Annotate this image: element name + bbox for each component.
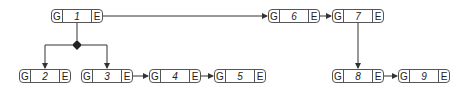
node-e-port: E bbox=[189, 70, 200, 82]
node-label: 2 bbox=[31, 70, 59, 82]
node-label: 9 bbox=[410, 70, 438, 82]
node-g-port: G bbox=[333, 70, 344, 82]
node-g-port: G bbox=[82, 70, 93, 82]
node-e-port: E bbox=[254, 70, 265, 82]
edge-diamond-2 bbox=[45, 45, 72, 68]
node-e-port: E bbox=[308, 10, 319, 22]
diagram-node-8[interactable]: G 8 E bbox=[332, 69, 384, 83]
node-label: 7 bbox=[344, 10, 372, 22]
node-e-port: E bbox=[372, 10, 383, 22]
node-g-port: G bbox=[150, 70, 161, 82]
diagram-node-6[interactable]: G 6 E bbox=[268, 9, 320, 23]
node-label: 8 bbox=[344, 70, 372, 82]
diagram-node-4[interactable]: G 4 E bbox=[149, 69, 201, 83]
node-g-port: G bbox=[333, 10, 344, 22]
diamond-icon bbox=[72, 40, 82, 50]
node-label: 4 bbox=[161, 70, 189, 82]
node-g-port: G bbox=[215, 70, 226, 82]
node-g-port: G bbox=[20, 70, 31, 82]
node-label: 5 bbox=[226, 70, 254, 82]
node-label: 3 bbox=[93, 70, 121, 82]
edge-diamond-3 bbox=[82, 45, 107, 68]
diagram-node-3[interactable]: G 3 E bbox=[81, 69, 133, 83]
node-g-port: G bbox=[52, 10, 63, 22]
node-e-port: E bbox=[121, 70, 132, 82]
node-label: 6 bbox=[280, 10, 308, 22]
node-e-port: E bbox=[59, 70, 70, 82]
diagram-node-9[interactable]: G 9 E bbox=[398, 69, 450, 83]
node-e-port: E bbox=[438, 70, 449, 82]
node-e-port: E bbox=[372, 70, 383, 82]
diagram-node-5[interactable]: G 5 E bbox=[214, 69, 266, 83]
diagram-node-2[interactable]: G 2 E bbox=[19, 69, 71, 83]
node-g-port: G bbox=[399, 70, 410, 82]
node-label: 1 bbox=[63, 10, 91, 22]
node-g-port: G bbox=[269, 10, 280, 22]
diagram-node-7[interactable]: G 7 E bbox=[332, 9, 384, 23]
diagram-node-1[interactable]: G 1 E bbox=[51, 9, 103, 23]
node-e-port: E bbox=[91, 10, 102, 22]
